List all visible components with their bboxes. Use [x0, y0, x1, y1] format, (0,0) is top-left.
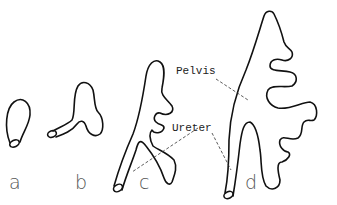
stage-label-a: a [9, 171, 21, 193]
stage-d-pelvis [223, 11, 317, 200]
ureter-label: Ureter [172, 122, 212, 134]
stage-label-d: d [245, 171, 257, 193]
stage-label-b: b [75, 171, 87, 193]
kidney-development-diagram: Pelvis Ureter a b c d [0, 0, 337, 205]
stage-a-bud [7, 100, 31, 149]
stage-label-c: c [139, 171, 149, 193]
pelvis-label: Pelvis [176, 65, 216, 77]
pelvis-leader-line [216, 79, 248, 100]
ureter-leader-line-c [132, 128, 198, 172]
stage-b-bud [47, 83, 103, 139]
